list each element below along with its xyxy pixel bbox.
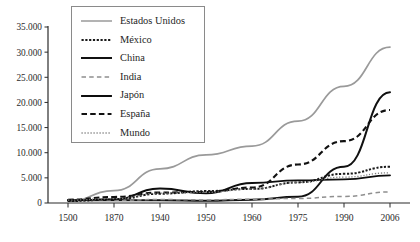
y-axis-tick-label: 15.000 <box>16 123 42 133</box>
y-axis-tick-label: 0 <box>37 198 42 208</box>
legend-swatch-dotted-thick-icon <box>81 35 112 45</box>
legend-item-label: India <box>120 72 141 82</box>
x-axis-tick-label: 1990 <box>334 212 353 223</box>
legend-swatch-solid-dark-icon <box>81 53 112 63</box>
legend-swatch-solid-light-icon <box>81 16 112 26</box>
legend-item-label: Estados Unidos <box>120 16 185 26</box>
legend-item-label: China <box>120 53 145 63</box>
legend-item[interactable]: India <box>72 68 204 87</box>
x-axis-tick-label: 1940 <box>150 212 169 223</box>
legend-item[interactable]: Mundo <box>72 123 204 142</box>
legend-item-label: Mundo <box>120 128 150 138</box>
legend-swatch-dashed-light-icon <box>81 72 112 82</box>
y-axis-tick-label: 5.000 <box>21 173 42 183</box>
y-axis-tick-label: 20.000 <box>16 98 42 108</box>
x-axis-tick-label: 1870 <box>104 212 123 223</box>
x-axis-tick-labels: 15001870194019501960197519902006 <box>58 212 399 223</box>
legend-swatch-dotted-fine-icon <box>81 128 112 138</box>
legend-item[interactable]: Japón <box>72 86 204 105</box>
y-axis-tick-label: 30.000 <box>16 48 42 58</box>
x-axis-tick-label: 1960 <box>242 212 261 223</box>
x-axis-tick-label: 1975 <box>288 212 307 223</box>
y-axis-tick-label: 10.000 <box>16 148 42 158</box>
y-axis-tick-labels: 05.00010.00015.00020.00025.00030.00035.0… <box>16 22 42 208</box>
legend-item[interactable]: España <box>72 105 204 124</box>
legend-item[interactable]: China <box>72 49 204 68</box>
y-axis-tick-label: 35.000 <box>16 22 42 32</box>
legend-item[interactable]: Estados Unidos <box>72 12 204 31</box>
x-axis-tick-label: 1500 <box>58 212 77 223</box>
legend-item-label: Japón <box>120 90 144 100</box>
x-axis-tick-label: 1950 <box>196 212 215 223</box>
y-axis-tick-label: 25.000 <box>16 73 42 83</box>
legend-swatch-dashed-thick-icon <box>81 109 112 119</box>
chart-legend: Estados UnidosMéxicoChinaIndiaJapónEspañ… <box>71 6 205 143</box>
x-axis-tick-label: 2006 <box>380 212 399 223</box>
line-chart: 05.00010.00015.00020.00025.00030.00035.0… <box>0 0 420 242</box>
legend-list: Estados UnidosMéxicoChinaIndiaJapónEspañ… <box>72 7 204 142</box>
legend-item-label: España <box>120 109 150 119</box>
legend-item-label: México <box>120 35 152 45</box>
chart-canvas: 05.00010.00015.00020.00025.00030.00035.0… <box>0 0 420 242</box>
legend-item[interactable]: México <box>72 31 204 50</box>
legend-swatch-solid-dark2-icon <box>81 91 112 101</box>
